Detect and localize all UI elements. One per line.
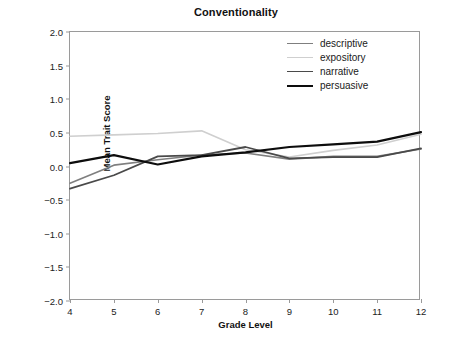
legend-item-persuasive[interactable]: persuasive: [287, 79, 412, 92]
series-line-persuasive: [70, 132, 421, 164]
chart-title: Conventionality: [0, 6, 472, 18]
y-tick-label: 0.0: [24, 161, 70, 172]
x-tick-label: 12: [416, 306, 427, 317]
y-tick-label: 1.0: [24, 94, 70, 105]
legend-swatch-expository: [287, 57, 313, 58]
legend-label: descriptive: [320, 37, 368, 50]
chart-legend: descriptiveexpositorynarrativepersuasive: [287, 35, 412, 95]
x-tick-label: 7: [199, 306, 204, 317]
y-tick-label: −1.0: [24, 228, 70, 239]
x-tick-label: 11: [372, 306, 382, 317]
legend-label: expository: [320, 51, 366, 64]
x-tick-mark: [421, 299, 422, 303]
x-tick-label: 10: [328, 306, 339, 317]
y-tick-label: 2.0: [24, 27, 70, 38]
legend-label: narrative: [320, 65, 359, 78]
y-tick-label: −2.0: [24, 296, 70, 307]
legend-swatch-descriptive: [287, 43, 313, 44]
y-tick-label: 1.5: [24, 60, 70, 71]
x-tick-label: 4: [67, 306, 72, 317]
chart-container: Conventionality Mean Trait Score 2.01.51…: [0, 0, 472, 343]
y-tick-label: −0.5: [24, 195, 70, 206]
x-tick-label: 8: [243, 306, 248, 317]
legend-item-narrative[interactable]: narrative: [287, 65, 412, 78]
y-tick-label: 0.5: [24, 127, 70, 138]
legend-item-descriptive[interactable]: descriptive: [287, 37, 412, 50]
legend-label: persuasive: [320, 79, 368, 92]
x-tick-label: 6: [155, 306, 160, 317]
legend-item-expository[interactable]: expository: [287, 51, 412, 64]
legend-swatch-narrative: [287, 71, 313, 72]
x-tick-label: 9: [287, 306, 292, 317]
x-axis-title: Grade Level: [70, 319, 421, 330]
series-line-descriptive: [70, 149, 421, 183]
legend-swatch-persuasive: [287, 85, 313, 87]
y-tick-label: −1.5: [24, 262, 70, 273]
x-tick-label: 5: [111, 306, 116, 317]
